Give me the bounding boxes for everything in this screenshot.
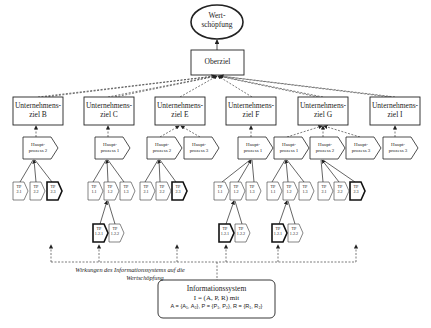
tp-label: TP1.3 — [120, 185, 132, 195]
tp-line2: 1.2.1 — [272, 232, 284, 237]
tp-label: TP1.1 — [214, 185, 226, 195]
tp-line2: 2.3 — [172, 190, 184, 195]
hp-label: Haupt-prozess 1 — [95, 142, 125, 154]
tp-line2: 2.1 — [13, 190, 25, 195]
hp-line2: prozess 1 — [95, 148, 125, 154]
tp-label: TP2.3 — [172, 185, 184, 195]
tp-line2: 1.2.1 — [93, 232, 105, 237]
info-line1: Informationssystem — [158, 284, 275, 294]
informationssystem-label: Informationssystem I = (A, P, R) mit A =… — [158, 284, 275, 310]
tp-line2: 1.3 — [120, 190, 132, 195]
ziel-b-label: Unternehmens-ziel B — [13, 102, 63, 119]
hp-line2: prozess 2 — [147, 148, 177, 154]
wertschoepfung-line2: schöpfung — [191, 21, 243, 30]
hp-label: Haupt-prozess 3 — [184, 142, 214, 154]
hp-label: Haupt-prozess 2 — [310, 142, 340, 154]
hp-line2: prozess 3 — [184, 148, 214, 154]
tp-line2: 1.1 — [214, 190, 226, 195]
wertschoepfung-label: Wert- schöpfung — [191, 12, 243, 29]
caption-line2: Wertschöpfung — [60, 274, 200, 282]
tp-label: TP2.1 — [318, 185, 330, 195]
hp-label: Haupt-prozess 3 — [383, 142, 413, 154]
tp-label: TP2.1 — [140, 185, 152, 195]
ziel-line2: ziel C — [84, 111, 134, 120]
ziel-line2: ziel B — [13, 111, 63, 120]
ziel-e-label: Unternehmens-ziel E — [155, 102, 205, 119]
tp-line2: 1.1 — [88, 190, 100, 195]
effects-caption: Wirkungen des Informationssystems auf di… — [60, 266, 200, 282]
tp-line2: 1.3 — [299, 190, 311, 195]
info-line3: A = {A₁, A₂}, P = {P₁, P₂}, R = {R₁, R₂} — [158, 303, 275, 310]
tp-label: TP1.2 — [104, 185, 116, 195]
hp-line2: prozess 1 — [274, 148, 304, 154]
hp-line2: prozess 3 — [383, 148, 413, 154]
tp-line2: 1.2 — [283, 190, 295, 195]
ziel-i-label: Unternehmens-ziel I — [370, 102, 420, 119]
sub-tp-label: TP1.2.2 — [109, 227, 121, 237]
tp-line2: 1.2.2 — [109, 232, 121, 237]
tp-line2: 2.2 — [156, 190, 168, 195]
hp-label: Haupt-prozess 1 — [274, 142, 304, 154]
hp-label: Haupt-prozess 2 — [147, 142, 177, 154]
tp-line2: 1.2 — [104, 190, 116, 195]
ziel-c-label: Unternehmens-ziel C — [84, 102, 134, 119]
sub-tp-label: TP1.2.1 — [219, 227, 231, 237]
sub-tp-label: TP1.2.1 — [93, 227, 105, 237]
tp-line2: 2.1 — [140, 190, 152, 195]
oberziel-label: Oberziel — [191, 58, 244, 67]
tp-line2: 2.3 — [47, 190, 59, 195]
info-line2: I = (A, P, R) mit — [158, 294, 275, 303]
ziel-line2: ziel E — [155, 111, 205, 120]
tp-line2: 1.2.2 — [235, 232, 247, 237]
tp-label: TP1.2 — [230, 185, 242, 195]
ziel-line2: ziel G — [298, 111, 348, 120]
ziel-f-label: Unternehmens-ziel F — [226, 102, 276, 119]
caption-line1: Wirkungen des Informationssystems auf di… — [60, 266, 200, 274]
tp-line2: 2.2 — [30, 190, 42, 195]
sub-tp-label: TP1.2.2 — [235, 227, 247, 237]
hp-line2: prozess 1 — [238, 148, 268, 154]
sub-tp-label: TP1.2.1 — [272, 227, 284, 237]
tp-line2: 1.2 — [230, 190, 242, 195]
hp-line2: prozess 2 — [23, 148, 53, 154]
tp-label: TP2.2 — [156, 185, 168, 195]
sub-tp-label: TP1.2.2 — [288, 227, 300, 237]
tp-label: TP1.2 — [283, 185, 295, 195]
tp-line2: 1.2.2 — [288, 232, 300, 237]
tp-line2: 2.1 — [318, 190, 330, 195]
tp-label: TP2.2 — [334, 185, 346, 195]
tp-label: TP1.3 — [246, 185, 258, 195]
ziel-line2: ziel I — [370, 111, 420, 120]
hp-label: Haupt-prozess 3 — [346, 142, 376, 154]
tp-label: TP2.2 — [30, 185, 42, 195]
tp-label: TP2.1 — [13, 185, 25, 195]
tp-line2: 1.2.1 — [219, 232, 231, 237]
tp-line2: 1.3 — [246, 190, 258, 195]
hp-label: Haupt-prozess 2 — [23, 142, 53, 154]
tp-line2: 2.3 — [350, 190, 362, 195]
hp-label: Haupt-prozess 1 — [238, 142, 268, 154]
tp-label: TP1.1 — [88, 185, 100, 195]
tp-label: TP1.1 — [267, 185, 279, 195]
tp-line2: 1.1 — [267, 190, 279, 195]
tp-label: TP2.3 — [47, 185, 59, 195]
hp-line2: prozess 3 — [346, 148, 376, 154]
tp-label: TP1.3 — [299, 185, 311, 195]
ziel-line2: ziel F — [226, 111, 276, 120]
tp-label: TP2.3 — [350, 185, 362, 195]
tp-line2: 2.2 — [334, 190, 346, 195]
ziel-g-label: Unternehmens-ziel G — [298, 102, 348, 119]
hp-line2: prozess 2 — [310, 148, 340, 154]
